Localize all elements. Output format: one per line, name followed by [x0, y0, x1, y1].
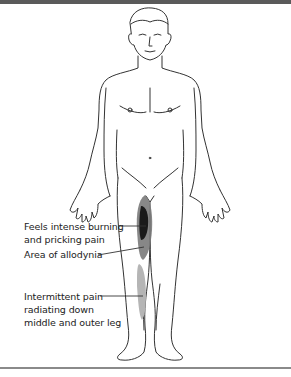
label-line: middle and outer leg	[24, 316, 121, 329]
label-allodynia: Area of allodynia	[24, 248, 102, 261]
label-line: Feels intense burning	[24, 220, 124, 233]
label-intermittent-pain: Intermittent pain radiating down middle …	[24, 290, 121, 329]
head-outline	[129, 8, 171, 60]
label-line: Intermittent pain	[24, 290, 121, 303]
label-line: and pricking pain	[24, 233, 124, 246]
torso-outline	[80, 56, 220, 214]
pain-regions	[137, 195, 152, 320]
bottom-border-rule	[0, 367, 291, 369]
label-line: Area of allodynia	[24, 248, 102, 261]
intermittent-pain-region	[137, 264, 146, 320]
label-burning-pain: Feels intense burning and pricking pain	[24, 220, 124, 246]
label-line: radiating down	[24, 303, 121, 316]
